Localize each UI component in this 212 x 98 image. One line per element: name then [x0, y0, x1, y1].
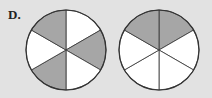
right-circle [119, 10, 199, 90]
left-circle [26, 10, 106, 90]
fraction-circles-figure [0, 0, 212, 98]
